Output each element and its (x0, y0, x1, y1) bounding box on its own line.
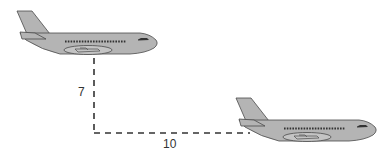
diagram-canvas (0, 0, 390, 158)
airplane-lower-icon (236, 98, 376, 142)
vertical-distance-label: 7 (78, 86, 85, 98)
airplane-upper-icon (17, 11, 157, 55)
horizontal-distance-label: 10 (163, 138, 176, 150)
